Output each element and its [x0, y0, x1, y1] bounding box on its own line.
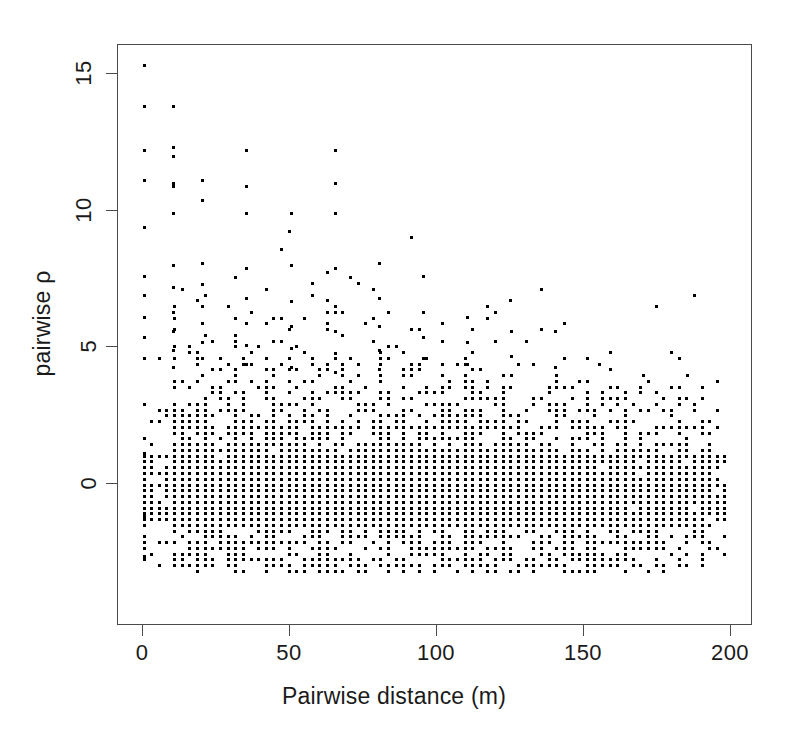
- x-tick-label-100: 100: [391, 640, 481, 666]
- x-tick-0: [142, 625, 143, 636]
- y-axis-label: pairwise ρ: [29, 194, 56, 454]
- scatter-points-layer: [118, 45, 752, 625]
- x-tick-50: [289, 625, 290, 636]
- x-tick-150: [583, 625, 584, 636]
- x-axis-label: Pairwise distance (m): [0, 683, 788, 710]
- x-tick-label-200: 200: [685, 640, 775, 666]
- y-tick-0: [106, 483, 117, 484]
- y-tick-5: [106, 346, 117, 347]
- x-tick-label-150: 150: [538, 640, 628, 666]
- y-tick-10: [106, 210, 117, 211]
- plot-area: [117, 44, 752, 625]
- x-tick-200: [730, 625, 731, 636]
- y-tick-label-15: 15: [0, 62, 96, 84]
- y-tick-label-0: 0: [0, 472, 96, 494]
- x-tick-100: [436, 625, 437, 636]
- x-tick-label-0: 0: [97, 640, 187, 666]
- x-tick-label-50: 50: [244, 640, 334, 666]
- scatter-plot-figure: 0 50 100 150 200 15 10 5 0 Pairwise dist…: [0, 0, 788, 744]
- y-tick-15: [106, 73, 117, 74]
